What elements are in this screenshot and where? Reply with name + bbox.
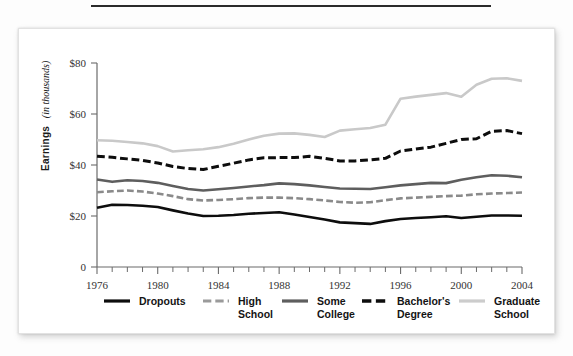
y-axis-title: Earnings(in thousands) [40, 60, 52, 171]
legend-label-line1: Some [317, 295, 346, 307]
x-axis: 19761980198419881992199620002004 [86, 267, 534, 291]
legend-item-high[interactable]: HighSchool [203, 295, 273, 320]
y-axis-tick-label: $60 [70, 108, 87, 120]
legend-label-line2: Degree [397, 308, 433, 320]
legend-label-line2: School [494, 308, 529, 320]
series-line-high-school [97, 191, 522, 203]
line-chart: 0$20$40$60$80 19761980198419881992199620… [19, 29, 556, 335]
y-axis-tick-label: 0 [81, 261, 87, 273]
legend-label-line1: Bachelor's [397, 295, 450, 307]
y-axis: 0$20$40$60$80 [70, 57, 98, 273]
y-axis-tick-label: $80 [70, 57, 87, 69]
x-axis-tick-label: 2000 [450, 279, 473, 291]
x-axis-tick-label: 1976 [86, 279, 109, 291]
top-horizontal-rule [91, 5, 491, 7]
x-axis-tick-label: 1980 [147, 279, 170, 291]
y-axis-title-bold: Earnings [40, 126, 51, 171]
page-root: 0$20$40$60$80 19761980198419881992199620… [0, 0, 573, 356]
legend-item-dropouts[interactable]: Dropouts [104, 295, 186, 307]
legend-label-line1: Graduate [494, 295, 540, 307]
y-axis-tick-label: $20 [70, 210, 87, 222]
series-line-some-college [97, 175, 522, 190]
series-line-graduate-school [97, 78, 522, 151]
legend-label-line1: High [238, 295, 261, 307]
y-axis-title-group: Earnings(in thousands) [40, 60, 52, 171]
y-axis-tick-label: $40 [70, 159, 87, 171]
y-axis-title-italic: (in thousands) [40, 60, 52, 118]
legend-label-line2: College [317, 308, 355, 320]
x-axis-tick-label: 1984 [207, 279, 230, 291]
series-line-bachelor-s-degree [97, 131, 522, 170]
x-axis-tick-label: 1992 [329, 279, 351, 291]
figure-panel: 0$20$40$60$80 19761980198419881992199620… [18, 28, 555, 334]
series-line-dropouts [97, 205, 522, 224]
legend-item-graduate[interactable]: GraduateSchool [459, 295, 540, 320]
chart-svg: 0$20$40$60$80 19761980198419881992199620… [19, 29, 556, 335]
x-axis-tick-label: 1988 [268, 279, 291, 291]
x-axis-tick-label: 1996 [390, 279, 413, 291]
x-axis-tick-label: 2004 [511, 279, 534, 291]
legend-label-line2: School [238, 308, 273, 320]
legend-item-bachelor-s[interactable]: Bachelor'sDegree [362, 295, 450, 320]
chart-series-group [97, 78, 522, 224]
chart-legend: DropoutsHighSchoolSomeCollegeBachelor'sD… [104, 295, 540, 320]
legend-item-some[interactable]: SomeCollege [282, 295, 355, 320]
legend-label-line1: Dropouts [139, 295, 186, 307]
